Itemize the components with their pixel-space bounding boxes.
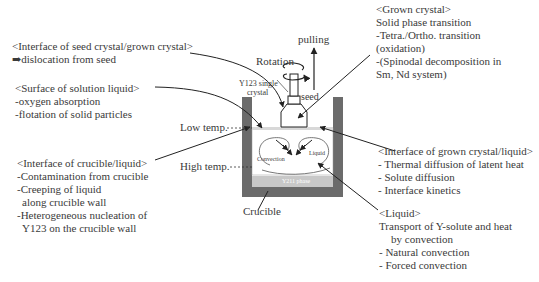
surface-line: -flotation of solid particles	[15, 108, 140, 121]
seed-interface-line: ➡dislocation from seed	[12, 53, 193, 66]
crucible-interface-block: <Interface of crucible/liquid> -Contamin…	[17, 157, 148, 235]
growth-interface-line: - Thermal diffusion of latent heat	[378, 158, 533, 171]
liquid-line: - Natural convection	[379, 246, 512, 259]
liquid-label: Liquid	[309, 150, 325, 157]
liquid-line: Transport of Y-solute and heat	[379, 220, 512, 233]
high-temp-label: High temp.	[180, 160, 230, 173]
surface-title: <Surface of solution liquid>	[15, 82, 140, 95]
crucible-label: Crucible	[243, 205, 281, 218]
grown-crystal-line: (oxidation)	[376, 42, 501, 55]
liquid-block: <Liquid> Transport of Y-solute and heat …	[379, 207, 512, 272]
seed-interface-block: <Interface of seed crystal/grown crystal…	[12, 40, 193, 66]
grown-crystal-line: Sm, Nd system)	[376, 68, 501, 81]
growth-interface-line: - Interface kinetics	[378, 184, 533, 197]
crucible-interface-line: along crucible wall	[17, 196, 148, 209]
seed-label: seed	[301, 90, 319, 103]
surface-block: <Surface of solution liquid> -oxygen abs…	[15, 82, 140, 121]
y123-single-label: Y123 single	[239, 79, 278, 88]
low-temp-label: Low temp.	[180, 121, 228, 134]
liquid-title: <Liquid>	[379, 207, 512, 220]
rotation-label: Rotation	[256, 55, 294, 68]
grown-crystal-line: Solid phase transition	[376, 16, 501, 29]
liquid-line: - Forced convection	[379, 259, 512, 272]
convection-label: Convection	[257, 156, 285, 163]
crucible-interface-title: <Interface of crucible/liquid>	[17, 157, 148, 170]
seed-interface-title: <Interface of seed crystal/grown crystal…	[12, 40, 193, 53]
crucible-interface-line: -Contamination from crucible	[17, 170, 148, 183]
y211-label: Y211 phase	[282, 178, 310, 185]
crystal-label: crystal	[247, 88, 268, 97]
grown-crystal-block: <Grown crystal> Solid phase transition -…	[376, 3, 501, 81]
pulling-label: pulling	[298, 33, 329, 46]
grown-crystal-line: -Tetra./Ortho. transition	[376, 29, 501, 42]
liquid-line: by convection	[379, 233, 512, 246]
grown-crystal-line: -(Spinodal decomposition in	[376, 55, 501, 68]
growth-interface-line: - Solute diffusion	[378, 171, 533, 184]
surface-line: -oxygen absorption	[15, 95, 140, 108]
crucible-interface-line: Y123 on the crucible wall	[17, 222, 148, 235]
growth-interface-block: <Interface of grown crystal/liquid> - Th…	[378, 145, 533, 197]
crucible-interface-line: -Creeping of liquid	[17, 183, 148, 196]
growth-interface-title: <Interface of grown crystal/liquid>	[378, 145, 533, 158]
grown-crystal-title: <Grown crystal>	[376, 3, 501, 16]
crucible-interface-line: -Heterogeneous nucleation of	[17, 209, 148, 222]
